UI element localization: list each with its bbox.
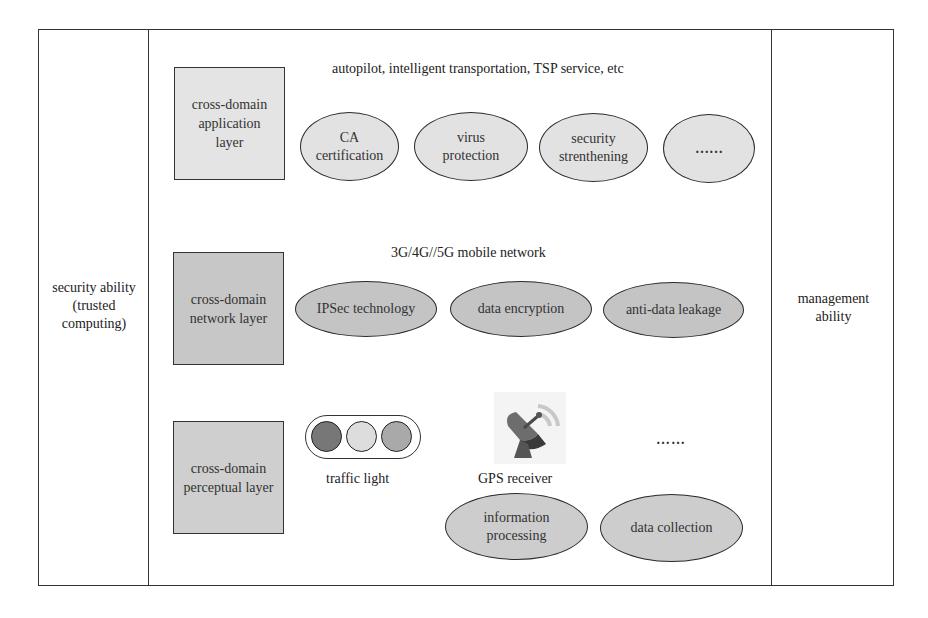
perceptual-layer-box: cross-domain perceptual layer (173, 421, 284, 534)
traffic-light-label: traffic light (326, 470, 389, 488)
ellipse-ca-certification: CA certification (300, 112, 399, 181)
ellipse-ipsec-technology: IPSec technology (295, 281, 437, 337)
ellipse-data-collection: data collection (600, 494, 743, 562)
traffic-light-icon (305, 415, 421, 459)
yellow-light-icon (346, 421, 377, 452)
network-layer-box: cross-domain network layer (173, 252, 284, 365)
left-divider (148, 29, 149, 586)
more-devices-ellipsis: …… (656, 432, 686, 448)
red-light-icon (311, 421, 342, 452)
ellipse-anti-data-leakage: anti-data leakage (603, 282, 744, 338)
right-divider (771, 29, 772, 586)
ellipse-data-encryption: data encryption (450, 281, 592, 337)
security-ability-label: security ability (trusted computing) (40, 279, 148, 333)
ellipse-security-strenthening: security strenthening (539, 113, 648, 182)
satellite-dish-icon (494, 392, 566, 464)
application-layer-box: cross-domain application layer (174, 67, 285, 180)
management-ability-label: management ability (773, 290, 894, 326)
ellipse-virus-protection: virus protection (414, 112, 528, 181)
green-light-icon (381, 421, 412, 452)
application-layer-caption: autopilot, intelligent transportation, T… (332, 60, 624, 78)
gps-receiver-label: GPS receiver (478, 470, 552, 488)
ellipse-more-items: …… (663, 114, 755, 183)
ellipse-information-processing: information processing (445, 493, 588, 560)
network-layer-caption: 3G/4G//5G mobile network (391, 244, 546, 262)
